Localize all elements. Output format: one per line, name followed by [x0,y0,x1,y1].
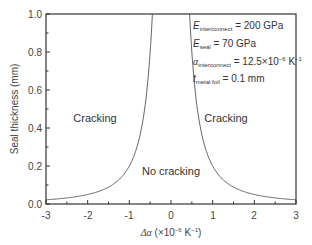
y-tick-label: 0.2 [28,161,42,172]
param-t-metal-foil: tmetal foil = 0.1 mm [193,73,265,85]
y-tick-label: 0.6 [28,85,42,96]
param-e-interconnect: Einterconnect = 200 GPa [193,20,284,32]
parameter-annotations: Einterconnect = 200 GPa Eseal = 70 GPa α… [193,20,303,85]
x-tick-label: 2 [251,210,257,221]
y-tick-label: 0.4 [28,123,42,134]
x-tick-label: -3 [42,210,51,221]
region-label-cracking-right: Cracking [204,112,247,124]
x-tick-label: -2 [84,210,93,221]
x-tick-label: 3 [293,210,299,221]
chart: -3 -2 -1 0 1 2 3 0.0 0.2 0.4 0.6 0.8 1.0… [0,0,312,245]
x-tick-label: -1 [125,210,134,221]
x-axis-label: Δα (×10−6 K−1) [140,227,202,238]
y-tick-label: 1.0 [28,9,42,20]
y-tick-label: 0.8 [28,47,42,58]
region-label-no-cracking: No cracking [142,165,200,177]
param-alpha-interconnect: αinterconnect = 12.5×10−6 K−1 [193,56,303,68]
x-axis-ticks [46,200,296,204]
param-e-seal: Eseal = 70 GPa [193,38,256,50]
y-tick-label: 0.0 [28,199,42,210]
region-label-cracking-left: Cracking [73,112,116,124]
x-tick-label: 0 [168,210,174,221]
x-tick-label: 1 [210,210,216,221]
y-axis-label: Seal thickness (mm) [9,64,20,155]
